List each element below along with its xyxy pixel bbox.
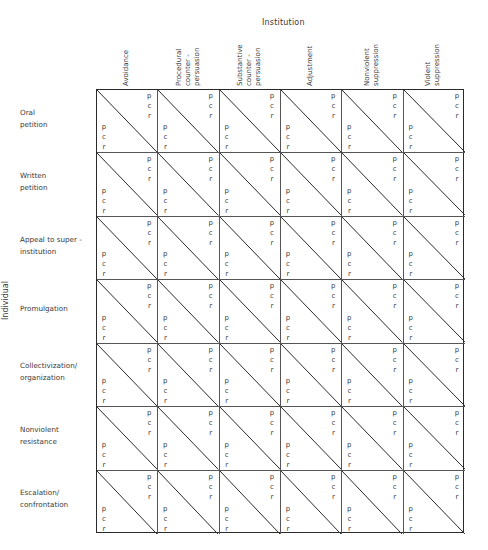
matrix-cell-escalation-confrontation-procedural-counter-persuasion: pcrpcr (158, 471, 219, 534)
pcr-letter: r (145, 238, 153, 248)
pcr-letter: p (407, 313, 415, 323)
pcr-letter: r (207, 111, 215, 121)
pcr-letter: c (268, 291, 276, 301)
pcr-letter: r (161, 460, 169, 470)
institution-pcr-labels: pcr (268, 472, 276, 502)
matrix-cell-collectivization-organization-nonviolent-suppression: pcrpcr (342, 344, 403, 407)
individual-pcr-labels: pcr (284, 122, 292, 152)
pcr-letter: p (329, 218, 337, 228)
pcr-letter: r (207, 238, 215, 248)
pcr-letter: c (345, 386, 353, 396)
individual-pcr-labels: pcr (345, 376, 353, 406)
matrix-cell-written-petition-avoidance: pcrpcr (97, 153, 158, 216)
matrix-cell-oral-petition-violent-suppression: pcrpcr (404, 90, 465, 153)
pcr-letter: c (407, 259, 415, 269)
pcr-letter: p (329, 345, 337, 355)
individual-pcr-labels: pcr (284, 313, 292, 343)
pcr-letter: p (345, 440, 353, 450)
pcr-letter: r (345, 524, 353, 534)
pcr-letter: c (345, 514, 353, 524)
matrix-cell-written-petition-nonviolent-suppression: pcrpcr (342, 153, 403, 216)
matrix-cell-appeal-to-super-institution-avoidance: pcrpcr (97, 217, 158, 280)
individual-pcr-labels: pcr (161, 122, 169, 152)
individual-pcr-labels: pcr (223, 504, 231, 534)
pcr-letter: c (207, 418, 215, 428)
pcr-letter: r (268, 111, 276, 121)
institution-pcr-labels: pcr (391, 154, 399, 184)
individual-pcr-labels: pcr (345, 249, 353, 279)
pcr-letter: r (161, 333, 169, 343)
matrix-cell-escalation-confrontation-violent-suppression: pcrpcr (404, 471, 465, 534)
pcr-letter: c (268, 228, 276, 238)
pcr-letter: c (284, 259, 292, 269)
pcr-letter: c (391, 355, 399, 365)
pcr-letter: p (268, 408, 276, 418)
pcr-letter: p (284, 313, 292, 323)
pcr-letter: r (161, 396, 169, 406)
pcr-letter: c (329, 164, 337, 174)
individual-pcr-labels: pcr (223, 440, 231, 470)
pcr-letter: p (329, 281, 337, 291)
matrix-cell-promulgation-procedural-counter-persuasion: pcrpcr (158, 280, 219, 343)
pcr-letter: p (284, 186, 292, 196)
pcr-letter: p (207, 154, 215, 164)
pcr-letter: r (161, 269, 169, 279)
individual-pcr-labels: pcr (407, 186, 415, 216)
pcr-letter: p (268, 154, 276, 164)
institution-pcr-labels: pcr (453, 408, 461, 438)
pcr-letter: r (391, 492, 399, 502)
pcr-letter: r (453, 428, 461, 438)
institution-pcr-labels: pcr (329, 281, 337, 311)
row-label-promulgation: Promulgation (20, 303, 96, 315)
pcr-letter: c (329, 355, 337, 365)
individual-pcr-labels: pcr (161, 249, 169, 279)
pcr-letter: r (391, 174, 399, 184)
pcr-letter: c (453, 355, 461, 365)
pcr-letter: r (100, 333, 108, 343)
pcr-letter: r (268, 428, 276, 438)
pcr-letter: p (345, 122, 353, 132)
pcr-letter: p (223, 186, 231, 196)
pcr-letter: r (145, 428, 153, 438)
institution-pcr-labels: pcr (329, 472, 337, 502)
pcr-letter: r (391, 238, 399, 248)
pcr-letter: p (145, 154, 153, 164)
pcr-letter: r (407, 460, 415, 470)
pcr-letter: p (453, 408, 461, 418)
pcr-letter: p (223, 376, 231, 386)
pcr-letter: p (223, 504, 231, 514)
institution-pcr-labels: pcr (268, 91, 276, 121)
individual-pcr-labels: pcr (407, 313, 415, 343)
pcr-letter: r (284, 333, 292, 343)
pcr-letter: p (100, 440, 108, 450)
pcr-letter: c (284, 323, 292, 333)
pcr-letter: c (284, 450, 292, 460)
pcr-letter: c (145, 355, 153, 365)
pcr-letter: p (453, 91, 461, 101)
pcr-letter: p (284, 249, 292, 259)
pcr-letter: c (345, 323, 353, 333)
institution-pcr-labels: pcr (453, 472, 461, 502)
pcr-letter: c (207, 482, 215, 492)
pcr-letter: c (223, 323, 231, 333)
individual-pcr-labels: pcr (407, 440, 415, 470)
pcr-letter: c (161, 196, 169, 206)
pcr-letter: p (268, 218, 276, 228)
pcr-letter: r (329, 174, 337, 184)
institution-pcr-labels: pcr (453, 154, 461, 184)
pcr-letter: r (100, 142, 108, 152)
matrix-cell-oral-petition-substantive-counter-persuasion: pcrpcr (220, 90, 281, 153)
row-label-written-petition: Written petition (20, 170, 96, 194)
pcr-letter: r (100, 460, 108, 470)
individual-pcr-labels: pcr (345, 504, 353, 534)
individual-pcr-labels: pcr (223, 122, 231, 152)
matrix-cell-oral-petition-adjustment: pcrpcr (281, 90, 342, 153)
pcr-letter: r (100, 269, 108, 279)
pcr-letter: r (407, 524, 415, 534)
pcr-letter: c (345, 450, 353, 460)
pcr-letter: c (223, 196, 231, 206)
pcr-letter: r (345, 142, 353, 152)
matrix-cell-written-petition-violent-suppression: pcrpcr (404, 153, 465, 216)
pcr-letter: c (161, 132, 169, 142)
pcr-letter: p (453, 218, 461, 228)
